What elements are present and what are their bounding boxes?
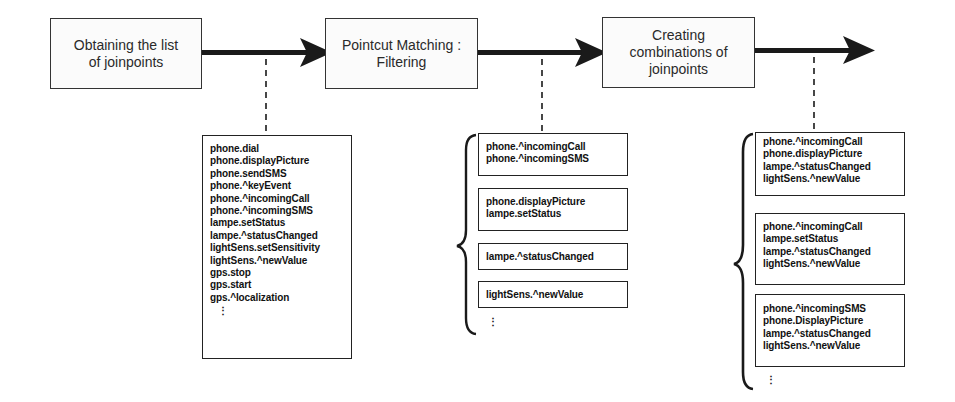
joinpoint-list-box: phone.dial phone.displayPicture phone.se… — [202, 135, 352, 359]
filtered-group-box: phone.^incomingCall phone.^incomingSMS — [478, 133, 628, 176]
combination-item: lampe.^statusChanged — [763, 161, 897, 173]
filtered-item: lampe.^statusChanged — [486, 251, 620, 263]
ellipsis-more: ⋮ — [210, 304, 344, 318]
step-3-label-line3: joinpoints — [629, 61, 727, 78]
combination-box: phone.^incomingCall phone.displayPicture… — [755, 132, 905, 196]
joinpoint-item: phone.^incomingSMS — [210, 205, 344, 217]
filtered-group-box: phone.displayPicture lampe.setStatus — [478, 188, 628, 231]
joinpoint-item: phone.dial — [210, 143, 344, 155]
ellipsis-more: ⋮ — [480, 312, 510, 336]
filtered-group-box: lightSens.^newValue — [478, 281, 628, 308]
combination-item: lampe.^statusChanged — [763, 246, 897, 258]
combination-item: phone.displayPicture — [763, 148, 897, 160]
filtered-item: phone.^incomingSMS — [486, 153, 620, 165]
joinpoint-item: phone.sendSMS — [210, 168, 344, 180]
ellipsis-more: ⋮ — [758, 370, 788, 394]
step-2-label-line1: Pointcut Matching : — [342, 37, 461, 54]
combination-item: lightSens.^newValue — [763, 258, 897, 270]
step-3-label-line2: combinations of — [629, 44, 727, 61]
combination-item: phone.^incomingCall — [763, 136, 897, 148]
combination-item: lampe.setStatus — [763, 233, 897, 245]
joinpoint-item: gps.start — [210, 279, 344, 291]
filtered-item: lightSens.^newValue — [486, 289, 620, 301]
combination-item: phone.^incomingCall — [763, 221, 897, 233]
combination-item: lightSens.^newValue — [763, 173, 897, 185]
curly-brace-combinations — [734, 134, 753, 389]
curly-brace-filtered — [457, 135, 476, 334]
joinpoint-item: gps.stop — [210, 267, 344, 279]
ellipsis-glyph: ⋮ — [766, 374, 780, 386]
joinpoint-item: lampe.^statusChanged — [210, 230, 344, 242]
combination-item: phone.^incomingSMS — [763, 303, 897, 315]
joinpoint-item: lightSens.setSensitivity — [210, 242, 344, 254]
step-1-label-line1: Obtaining the list — [74, 37, 178, 54]
joinpoint-item: lampe.setStatus — [210, 217, 344, 229]
combination-item: phone.DisplayPicture — [763, 315, 897, 327]
ellipsis-glyph: ⋮ — [488, 316, 502, 328]
step-2-label-line2: Filtering — [342, 54, 461, 71]
joinpoint-item: gps.^localization — [210, 292, 344, 304]
filtered-group-box: lampe.^statusChanged — [478, 243, 628, 270]
step-obtaining-joinpoints: Obtaining the list of joinpoints — [50, 18, 202, 89]
joinpoint-item: lightSens.^newValue — [210, 255, 344, 267]
combination-item: lightSens.^newValue — [763, 340, 897, 352]
filtered-item: lampe.setStatus — [486, 208, 620, 220]
joinpoint-item: phone.^keyEvent — [210, 180, 344, 192]
filtered-item: phone.displayPicture — [486, 196, 620, 208]
combination-item: lampe.^statusChanged — [763, 328, 897, 340]
step-pointcut-matching: Pointcut Matching : Filtering — [325, 18, 478, 89]
joinpoint-item: phone.displayPicture — [210, 155, 344, 167]
joinpoint-item: phone.^incomingCall — [210, 193, 344, 205]
step-creating-combinations: Creating combinations of joinpoints — [602, 17, 755, 88]
combination-box: phone.^incomingCall lampe.setStatus lamp… — [755, 213, 905, 285]
step-1-label-line2: of joinpoints — [74, 54, 178, 71]
step-3-label-line1: Creating — [629, 27, 727, 44]
filtered-item: phone.^incomingCall — [486, 141, 620, 153]
diagram-canvas: Obtaining the list of joinpoints Pointcu… — [0, 0, 955, 402]
combination-box: phone.^incomingSMS phone.DisplayPicture … — [755, 294, 905, 367]
